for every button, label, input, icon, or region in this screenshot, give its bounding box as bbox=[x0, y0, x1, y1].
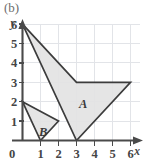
geometry-figure: (b) A B bbox=[0, 0, 148, 163]
x-tick-label-6: 6 bbox=[127, 147, 133, 161]
x-tick-label-5: 5 bbox=[109, 147, 115, 161]
x-axis-arrowhead bbox=[133, 136, 143, 144]
origin-label: 0 bbox=[9, 147, 15, 161]
x-axis-label: x bbox=[133, 145, 140, 157]
y-axis-label: y bbox=[8, 17, 16, 30]
x-tick-label-4: 4 bbox=[91, 147, 98, 161]
x-tick-label-2: 2 bbox=[55, 147, 61, 161]
y-tick-label-2: 2 bbox=[11, 95, 17, 109]
shape-b-label: B bbox=[38, 125, 47, 139]
y-tick-label-4: 4 bbox=[11, 56, 18, 70]
y-tick-label-5: 5 bbox=[11, 37, 17, 51]
y-tick-label-3: 3 bbox=[11, 76, 17, 90]
x-tick-label-3: 3 bbox=[73, 147, 79, 161]
coordinate-plane: A B 1 2 3 4 5 6 bbox=[0, 0, 148, 163]
y-tick-label-1: 1 bbox=[11, 115, 17, 129]
x-tick-label-1: 1 bbox=[37, 147, 43, 161]
shape-a-label: A bbox=[78, 97, 87, 111]
